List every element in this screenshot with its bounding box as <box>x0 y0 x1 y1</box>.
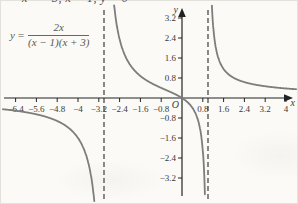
rational-function-figure: x = −3, x = 1, y = 0 y = 2x (x − 1)(x + … <box>0 0 298 204</box>
curve-branch <box>212 6 296 90</box>
y-tick-label: 1.6 <box>165 53 177 63</box>
x-tick-label: 4 <box>284 104 289 114</box>
x-tick-label: −4 <box>73 104 83 114</box>
x-tick-label: 0.8 <box>197 104 209 114</box>
x-tick-label: −3.2 <box>91 104 107 114</box>
y-tick-label: −1.6 <box>160 133 177 143</box>
graph-canvas: −6.4−5.6−4.8−4−3.2−2.4−1.6−0.80.81.62.43… <box>0 0 298 204</box>
x-tick-label: −4.8 <box>49 104 66 114</box>
x-tick-label: −2.4 <box>111 104 128 114</box>
y-tick-label: 0.8 <box>165 73 177 83</box>
y-axis-label: y <box>173 4 179 15</box>
y-tick-label: −2.4 <box>160 153 177 163</box>
y-axis-arrow <box>178 8 186 17</box>
curve-branch <box>3 109 94 201</box>
x-tick-label: −1.6 <box>132 104 149 114</box>
y-tick-label: −0.8 <box>160 113 177 123</box>
x-axis-label: x <box>290 97 296 108</box>
y-tick-label: −3.2 <box>160 173 176 183</box>
x-tick-label: 1.6 <box>218 104 230 114</box>
x-tick-label: 3.2 <box>260 104 271 114</box>
origin-label: O <box>172 99 179 110</box>
x-tick-label: 2.4 <box>239 104 251 114</box>
curve-branch <box>114 5 205 194</box>
y-tick-label: 2.4 <box>165 33 177 43</box>
